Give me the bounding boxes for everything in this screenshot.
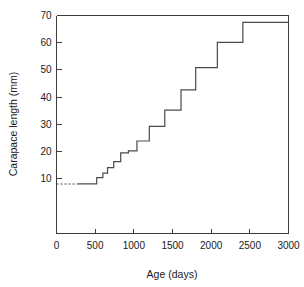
- chart-figure: 10203040506070 050010001500200025003000 …: [0, 0, 304, 287]
- x-tick-label-1000: 1000: [123, 240, 146, 251]
- y-tick-label-20: 20: [40, 146, 52, 157]
- y-tick-label-10: 10: [40, 173, 52, 184]
- x-axis-tick-labels: 050010001500200025003000: [54, 240, 300, 251]
- x-tick-label-0: 0: [54, 240, 60, 251]
- x-tick-label-3000: 3000: [277, 240, 300, 251]
- axis-frame: [57, 16, 289, 234]
- x-tick-label-2000: 2000: [200, 240, 223, 251]
- x-axis-title: Age (days): [147, 268, 198, 280]
- x-axis-ticks: [57, 229, 289, 234]
- y-tick-label-50: 50: [40, 64, 52, 75]
- y-axis-tick-labels: 10203040506070: [40, 10, 52, 184]
- x-tick-label-500: 500: [87, 240, 104, 251]
- y-tick-label-40: 40: [40, 92, 52, 103]
- y-tick-label-70: 70: [40, 10, 52, 21]
- y-tick-label-60: 60: [40, 37, 52, 48]
- plot-frame: [57, 16, 289, 234]
- y-axis-title: Carapace length (mm): [7, 72, 19, 176]
- x-tick-label-1500: 1500: [161, 240, 184, 251]
- growth-step-series: [78, 22, 288, 184]
- x-tick-label-2500: 2500: [239, 240, 262, 251]
- chart-svg: 10203040506070 050010001500200025003000 …: [0, 0, 304, 287]
- y-axis-ticks: [57, 16, 62, 179]
- y-tick-label-30: 30: [40, 119, 52, 130]
